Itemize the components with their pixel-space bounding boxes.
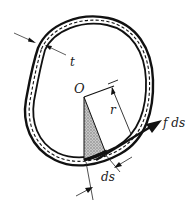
force-label: f ds [162,116,185,130]
origin-label: O [74,81,85,96]
shaded-triangle [84,97,105,160]
arrow-head-icon [114,162,122,168]
tube-torsion-diagram: t O r f ds ds [0,0,195,207]
radius-label: r [110,103,117,117]
ds-label: ds [101,170,115,184]
arrow-head-icon [146,120,162,133]
arrow-head-icon [28,38,36,44]
thickness-label: t [70,55,75,69]
force-arrow: f ds [96,116,185,160]
